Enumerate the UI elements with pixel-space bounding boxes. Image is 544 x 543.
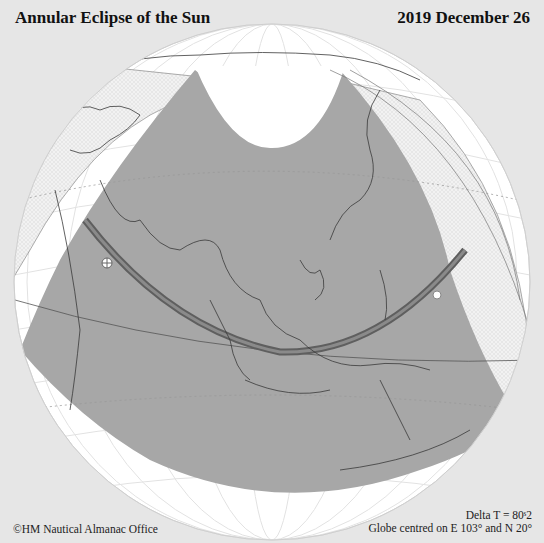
- end-marker-icon: [433, 291, 441, 299]
- delta-t: Delta T = 80ˢ2: [369, 509, 532, 522]
- map-info: Delta T = 80ˢ2 Globe centred on E 103° a…: [369, 509, 532, 535]
- start-marker-icon: [102, 258, 112, 268]
- page-title: Annular Eclipse of the Sun: [15, 8, 210, 28]
- globe-centre: Globe centred on E 103° and N 20°: [369, 522, 532, 535]
- eclipse-globe-map: [0, 0, 544, 543]
- eclipse-date: 2019 December 26: [397, 8, 530, 28]
- credit-text: ©HM Nautical Almanac Office: [13, 523, 158, 535]
